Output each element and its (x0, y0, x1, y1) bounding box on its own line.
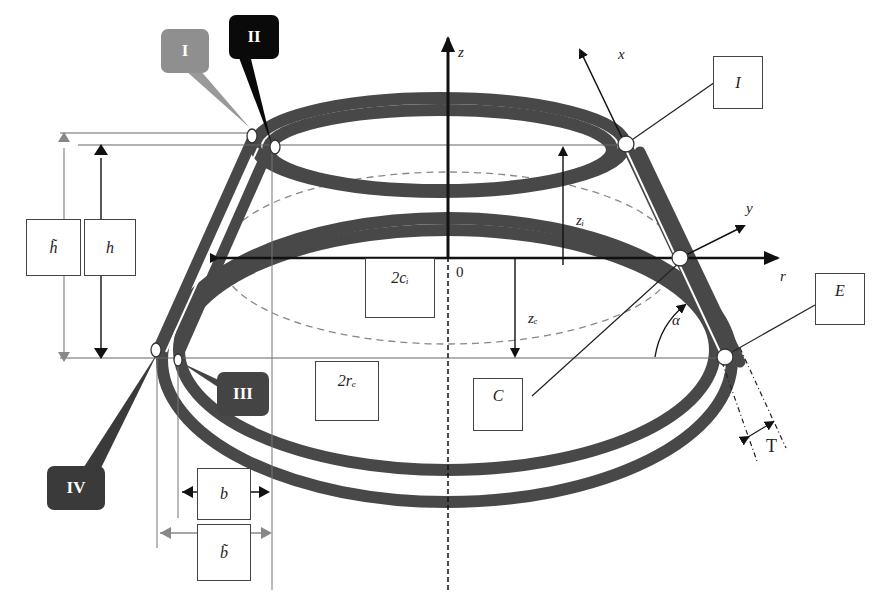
box-2re: 2rₑ (315, 361, 379, 421)
tag-III: III (217, 372, 269, 416)
box-b: b (197, 468, 251, 520)
tag-II: II (229, 15, 279, 59)
box-h: h (84, 219, 136, 276)
tag-I: I (161, 29, 209, 73)
box-b-tilde: b̃ (197, 524, 251, 581)
y-axis (680, 226, 744, 258)
zi-label: zᵢ (576, 212, 584, 229)
origin-label: 0 (456, 264, 464, 281)
box-h-tilde: h̃ (26, 219, 81, 276)
box-I: I (713, 56, 763, 109)
x-axis-label: x (618, 46, 625, 63)
box-2ci: 2cᵢ (365, 258, 435, 318)
bottom-rings (162, 218, 732, 502)
T-dimension-arrow (748, 422, 773, 437)
ze-label: zₑ (528, 310, 538, 327)
r-axis-label: r (780, 268, 786, 285)
T-label: T (766, 436, 777, 457)
box-C: C (473, 378, 523, 431)
y-axis-label: y (746, 200, 753, 217)
z-axis-label: z (458, 44, 464, 61)
tag-IV: IV (47, 466, 105, 510)
alpha-label: α (672, 312, 680, 329)
alpha-arc (655, 305, 685, 357)
box-E: E (815, 273, 865, 325)
